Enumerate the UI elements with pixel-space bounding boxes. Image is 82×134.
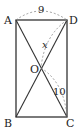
label-d: D xyxy=(69,14,78,27)
label-a: A xyxy=(3,14,13,27)
label-o: O xyxy=(30,63,39,76)
rectangle-diagram: A D B C O 9 x 10 xyxy=(0,0,82,134)
label-c: C xyxy=(66,117,74,130)
label-b: B xyxy=(4,117,12,130)
measure-ad: 9 xyxy=(38,4,44,15)
measure-oc: 10 xyxy=(53,86,66,97)
measure-do: x xyxy=(42,39,48,50)
